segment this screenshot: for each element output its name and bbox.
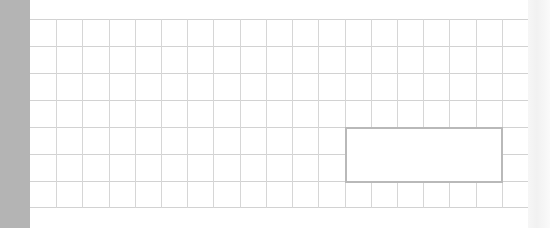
grid-vline [161,19,162,208]
grid-vline [187,19,188,208]
left-sidebar-bar [0,0,30,228]
grid-vline [82,19,83,208]
grid-vline [266,19,267,208]
grid-hline [30,100,528,101]
grid-vline [135,19,136,208]
grid-vline [318,19,319,208]
grid-hline [30,46,528,47]
grid-vline [109,19,110,208]
grid-hline [30,73,528,74]
grid-vline [213,19,214,208]
right-scroll-strip[interactable] [528,0,550,228]
grid-hline [30,207,528,208]
grid-vline [240,19,241,208]
selection-rectangle[interactable] [345,127,503,183]
grid-vline [292,19,293,208]
grid-hline [30,19,528,20]
grid-vline [56,19,57,208]
